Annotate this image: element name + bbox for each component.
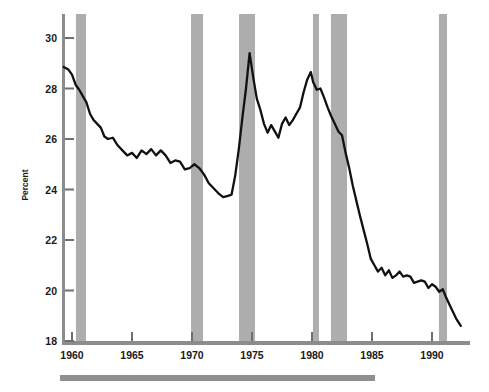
y-axis-title: Percent xyxy=(20,169,30,200)
recession-band xyxy=(191,14,203,341)
y-tick-mark xyxy=(65,37,74,39)
x-tick-label: 1970 xyxy=(180,349,204,361)
x-tick-mark xyxy=(251,332,253,341)
x-tick-label: 1985 xyxy=(360,349,384,361)
recession-band xyxy=(331,14,347,341)
footer-accent-bar xyxy=(60,375,375,381)
y-tick-label: 18 xyxy=(45,335,57,347)
y-tick-label: 24 xyxy=(45,184,57,196)
x-tick-label: 1990 xyxy=(420,349,444,361)
y-tick-label: 28 xyxy=(45,83,57,95)
x-tick-label: 1960 xyxy=(60,349,84,361)
x-tick-mark xyxy=(431,332,433,341)
data-series xyxy=(64,53,461,326)
y-tick-mark xyxy=(65,88,74,90)
chart-canvas: 18202224262830 1960196519701975198019851… xyxy=(0,0,489,392)
x-tick-label: 1965 xyxy=(120,349,144,361)
recession-band xyxy=(239,14,255,341)
x-tick-mark xyxy=(191,332,193,341)
x-tick-mark xyxy=(71,332,73,341)
y-tick-mark xyxy=(65,138,74,140)
x-tick-label: 1975 xyxy=(240,349,264,361)
y-tick-mark xyxy=(65,239,74,241)
chart-axes xyxy=(62,14,470,345)
x-tick-label: 1980 xyxy=(300,349,324,361)
x-tick-mark xyxy=(131,332,133,341)
y-tick-label: 30 xyxy=(45,32,57,44)
y-axis-line xyxy=(62,14,65,342)
x-axis-ticks: 1960196519701975198019851990 xyxy=(60,332,444,361)
y-axis-ticks: 18202224262830 xyxy=(45,32,74,347)
recession-bands xyxy=(76,14,447,341)
x-tick-mark xyxy=(311,332,313,341)
x-axis-line xyxy=(62,341,470,345)
y-tick-label: 20 xyxy=(45,285,57,297)
series-line xyxy=(64,53,461,326)
x-tick-mark xyxy=(371,332,373,341)
y-tick-mark xyxy=(65,290,74,292)
y-tick-label: 22 xyxy=(45,234,57,246)
y-tick-mark xyxy=(65,189,74,191)
chart-figure: 18202224262830 1960196519701975198019851… xyxy=(0,0,489,392)
y-tick-label: 26 xyxy=(45,133,57,145)
recession-band xyxy=(313,14,319,341)
recession-band xyxy=(76,14,86,341)
